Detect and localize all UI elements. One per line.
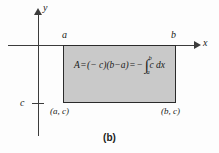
- formula-product: (− c)(b−a): [87, 60, 129, 70]
- corner-label-bottom-left: (a, c): [50, 107, 69, 116]
- shaded-region-rectangle: [63, 45, 176, 103]
- y-axis-line: [38, 14, 39, 136]
- formula-equals-first: =: [80, 60, 87, 70]
- x-mark-label-b: b: [171, 30, 176, 40]
- formula-integrand: c dx: [150, 60, 166, 70]
- formula-area-symbol: A: [74, 60, 80, 70]
- figure-caption: (b): [0, 133, 219, 143]
- integral-sign-icon: ∫ba: [144, 60, 148, 71]
- figure-container: y x c a b A=(− c)(b−a)=−∫bac dx (a, c) (…: [0, 0, 219, 153]
- x-mark-label-a: a: [62, 30, 67, 40]
- x-axis-arrow-icon: [194, 41, 201, 49]
- integral-lower-limit: a: [146, 69, 149, 76]
- x-axis-label: x: [203, 38, 207, 48]
- y-axis-tick-c: [32, 103, 44, 104]
- integral-upper-limit: b: [148, 55, 151, 62]
- formula-minus-sign: −: [136, 60, 143, 70]
- corner-label-bottom-right: (b, c): [161, 107, 180, 116]
- y-axis-tick-label-c: c: [20, 98, 24, 108]
- area-formula: A=(− c)(b−a)=−∫bac dx: [63, 60, 176, 71]
- y-axis-arrow-icon: [34, 8, 42, 15]
- formula-equals-second: =: [129, 60, 136, 70]
- y-axis-label: y: [43, 3, 47, 13]
